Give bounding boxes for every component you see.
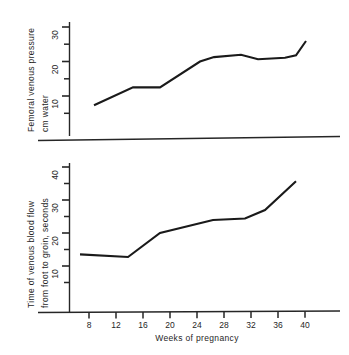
bottom-ytick-label-20: 20 (50, 236, 60, 246)
top-ytick-label-30: 30 (50, 30, 60, 40)
bottom-panel: 40 30 20 10 Time of venous blood flow fr… (26, 163, 340, 343)
bottom-xtick-label-32: 32 (246, 320, 256, 330)
bottom-x-axis-spine (38, 311, 340, 313)
bottom-ytick-label-10: 10 (50, 269, 60, 279)
top-y-axis-title-line1: Femoral venous pressure (26, 28, 36, 132)
bottom-xtick-label-36: 36 (273, 320, 283, 330)
x-axis-title: Weeks of pregnancy (155, 333, 239, 343)
two-panel-line-chart: 30 20 10 Femoral venous pressure cm wate… (0, 0, 349, 355)
bottom-xtick-label-40: 40 (300, 320, 310, 330)
figure-container: 30 20 10 Femoral venous pressure cm wate… (0, 0, 349, 355)
bottom-xtick-label-20: 20 (165, 320, 175, 330)
bottom-xtick-label-12: 12 (111, 320, 121, 330)
bottom-ytick-label-30: 30 (50, 203, 60, 213)
top-data-line (94, 41, 306, 105)
bottom-data-line (80, 181, 296, 257)
top-ytick-label-10: 10 (50, 99, 60, 109)
bottom-xtick-label-28: 28 (219, 320, 229, 330)
bottom-xtick-label-8: 8 (87, 320, 92, 330)
bottom-y-axis-title-line1: Time of venous blood flow (26, 200, 36, 308)
bottom-y-axis-title-line2: from foot to groin, seconds (40, 198, 50, 308)
top-panel: 30 20 10 Femoral venous pressure cm wate… (26, 22, 340, 141)
bottom-ytick-label-40: 40 (50, 170, 60, 180)
bottom-xtick-label-24: 24 (192, 320, 202, 330)
top-ytick-label-20: 20 (50, 64, 60, 74)
bottom-xtick-label-16: 16 (138, 320, 148, 330)
top-baseline (38, 137, 340, 141)
top-y-axis-title-line2: cm water (40, 95, 50, 132)
